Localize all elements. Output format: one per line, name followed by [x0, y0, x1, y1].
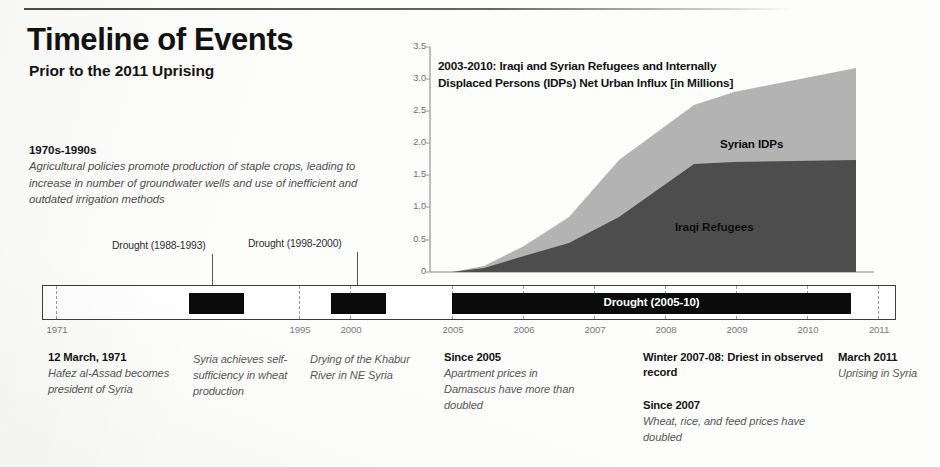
- timeline-bar-drought-1998: [331, 293, 386, 314]
- timeline-bar-drought-1988: [189, 293, 244, 314]
- timeline-tick-1995: [299, 286, 300, 319]
- timeline-year-2000: 2000: [341, 324, 362, 335]
- event-food-prices: Since 2007 Wheat, rice, and feed prices …: [643, 398, 808, 446]
- event-body: Syria achieves self-sufficiency in wheat…: [193, 352, 305, 399]
- y-axis-ticks: [426, 47, 430, 272]
- event-heading: Since 2007: [643, 398, 808, 413]
- y-tick-3-5: 3.5: [404, 41, 426, 51]
- y-tick-0-5: 0.5: [404, 234, 426, 244]
- page-title: Timeline of Events: [27, 24, 293, 55]
- callout-drought-1988: Drought (1988-1993): [112, 240, 206, 251]
- event-body: Wheat, rice, and feed prices have double…: [643, 414, 808, 446]
- event-heading: Winter 2007-08: Driest in observed recor…: [643, 350, 828, 380]
- timeline-year-2009: 2009: [727, 324, 748, 335]
- event-body: Drying of the Khabur River in NE Syria: [310, 352, 420, 384]
- timeline-infographic: Timeline of Events Prior to the 2011 Upr…: [0, 0, 940, 467]
- event-wheat-self-sufficiency: Syria achieves self-sufficiency in wheat…: [193, 352, 305, 399]
- timeline-year-2005: 2005: [443, 324, 464, 335]
- event-apartment-prices: Since 2005 Apartment prices in Damascus …: [444, 350, 589, 413]
- y-tick-3-0: 3.0: [404, 73, 426, 83]
- event-heading: Since 2005: [444, 350, 589, 365]
- y-tick-0: 0: [404, 266, 426, 276]
- event-body: Hafez al-Assad becomes president of Syri…: [48, 366, 188, 398]
- y-tick-1-0: 1.0: [404, 201, 426, 211]
- timeline-year-2007: 2007: [585, 324, 606, 335]
- page-subtitle: Prior to the 2011 Uprising: [29, 62, 214, 80]
- era-note-body: Agricultural policies promote production…: [29, 158, 399, 208]
- y-tick-2-0: 2.0: [404, 137, 426, 147]
- timeline-bar-drought-2005: Drought (2005-10): [452, 293, 851, 314]
- timeline-tick-1971: [56, 286, 57, 319]
- event-body: Apartment prices in Damascus have more t…: [444, 366, 589, 413]
- era-note: 1970s-1990s Agricultural policies promot…: [29, 143, 399, 208]
- timeline-year-2006: 2006: [514, 324, 535, 335]
- event-khabur-river: Drying of the Khabur River in NE Syria: [310, 352, 420, 384]
- event-heading: March 2011: [838, 350, 933, 365]
- event-body: Uprising in Syria: [838, 366, 933, 382]
- refugee-influx-area-chart: 2003-2010: Iraqi and Syrian Refugees and…: [404, 38, 904, 283]
- era-note-heading: 1970s-1990s: [29, 143, 399, 156]
- timeline-year-1995: 1995: [290, 324, 311, 335]
- timeline-tick-2011: [878, 286, 879, 319]
- event-march-2011-uprising: March 2011 Uprising in Syria: [838, 350, 933, 382]
- series-label-syrian-idps: Syrian IDPs: [720, 137, 783, 150]
- event-heading: 12 March, 1971: [48, 350, 188, 365]
- chart-title: 2003-2010: Iraqi and Syrian Refugees and…: [438, 58, 768, 92]
- timeline-year-2008: 2008: [656, 324, 677, 335]
- timeline-bar-label-drought-2005: Drought (2005-10): [452, 296, 851, 308]
- scan-artifact-line: [24, 8, 794, 10]
- y-tick-2-5: 2.5: [404, 105, 426, 115]
- series-label-iraqi-refugees: Iraqi Refugees: [675, 220, 754, 233]
- event-1971-assad: 12 March, 1971 Hafez al-Assad becomes pr…: [48, 350, 188, 398]
- callout-drought-1998: Drought (1998-2000): [248, 238, 342, 249]
- timeline-year-2010: 2010: [798, 324, 819, 335]
- event-winter-2007-driest: Winter 2007-08: Driest in observed recor…: [643, 350, 828, 381]
- timeline-year-1971: 1971: [47, 324, 68, 335]
- timeline-band: Drought (2005-10): [42, 285, 896, 320]
- y-tick-1-5: 1.5: [404, 169, 426, 179]
- timeline-year-2011: 2011: [869, 324, 889, 335]
